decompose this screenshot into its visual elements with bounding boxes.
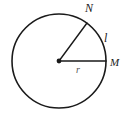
point-label-n: N (85, 2, 93, 14)
radius-label-r: r (76, 65, 80, 75)
circle-diagram-svg (0, 0, 126, 116)
circle-diagram-figure: N M l r (0, 0, 126, 116)
point-label-m: M (110, 57, 119, 68)
center-point-dot (57, 59, 62, 64)
radius-line-to-n (59, 23, 87, 61)
arc-length-label-l: l (104, 32, 107, 44)
